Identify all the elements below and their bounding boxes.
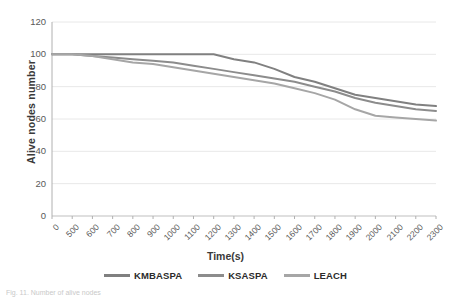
series-group: [52, 54, 436, 120]
figure-caption: Fig. 11. Number of alive nodes: [6, 289, 306, 299]
y-axis-tick-label: 80: [14, 81, 46, 92]
series-line-ksaspa: [52, 54, 436, 111]
y-axis-tick-label: 40: [14, 145, 46, 156]
y-axis-tick-label: 120: [14, 16, 46, 27]
line-chart: Alive nodes number 020406080100120 05006…: [0, 0, 451, 300]
legend-label: KSASPA: [228, 270, 268, 281]
legend-label: LEACH: [314, 270, 347, 281]
y-axis-tick-label: 60: [14, 113, 46, 124]
legend-label: KMBASPA: [134, 270, 182, 281]
y-axis-tick-label: 0: [14, 210, 46, 221]
gridline-group: [52, 22, 436, 216]
legend: KMBASPAKSASPALEACH: [0, 270, 451, 281]
legend-swatch-icon: [104, 274, 130, 276]
y-axis-tick-label: 100: [14, 48, 46, 59]
y-axis-tick-label: 20: [14, 178, 46, 189]
legend-item-ksaspa[interactable]: KSASPA: [198, 270, 268, 281]
x-axis-label: Time(s): [0, 250, 451, 262]
legend-swatch-icon: [284, 274, 310, 276]
legend-swatch-icon: [198, 274, 224, 276]
series-line-leach: [52, 54, 436, 120]
legend-item-leach[interactable]: LEACH: [284, 270, 347, 281]
figure-container: Alive nodes number 020406080100120 05006…: [0, 0, 451, 300]
series-line-kmbaspa: [52, 54, 436, 106]
legend-item-kmbaspa[interactable]: KMBASPA: [104, 270, 182, 281]
axis-group: [52, 22, 436, 219]
